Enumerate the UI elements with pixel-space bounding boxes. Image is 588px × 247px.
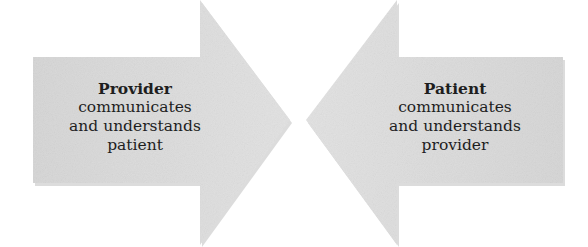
provider-line-2: and understands	[40, 117, 230, 136]
patient-arrow-label: Patient communicates and understands pro…	[360, 79, 550, 155]
provider-title: Provider	[40, 79, 230, 98]
patient-line-3: provider	[360, 136, 550, 155]
patient-line-1: communicates	[360, 98, 550, 117]
provider-line-1: communicates	[40, 98, 230, 117]
patient-title: Patient	[360, 79, 550, 98]
provider-arrow-label: Provider communicates and understands pa…	[40, 79, 230, 155]
provider-line-3: patient	[40, 136, 230, 155]
patient-line-2: and understands	[360, 117, 550, 136]
